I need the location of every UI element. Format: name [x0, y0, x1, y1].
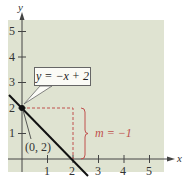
x-tick-label-2: 2	[69, 165, 75, 177]
x-axis-label: x	[177, 153, 182, 164]
y-tick-label-3: 3	[9, 76, 15, 88]
x-tick-label-5: 5	[146, 165, 152, 177]
y-tick-label-4: 4	[9, 51, 15, 63]
equation-callout: y = −x + 2	[34, 67, 91, 86]
slope-label: m = −1	[95, 127, 132, 139]
chart: y x 1 2 3 4 5 1 2 3 4 5 y = −x + 2 (0, 2…	[0, 0, 186, 182]
y-tick-label-2: 2	[9, 102, 15, 114]
point-0-2	[19, 105, 25, 111]
y-axis-arrow-icon	[20, 12, 25, 20]
equation-label: y = −x + 2	[36, 69, 89, 84]
y-tick-label-1: 1	[9, 127, 15, 139]
y-axis-label: y	[18, 2, 23, 13]
x-tick-label-1: 1	[44, 165, 50, 177]
x-tick-label-3: 3	[95, 165, 101, 177]
plot-svg	[0, 0, 186, 182]
y-tick-label-5: 5	[9, 25, 15, 37]
point-label: (0, 2)	[25, 141, 51, 153]
x-tick-label-4: 4	[120, 165, 126, 177]
x-axis-arrow-icon	[167, 157, 175, 162]
